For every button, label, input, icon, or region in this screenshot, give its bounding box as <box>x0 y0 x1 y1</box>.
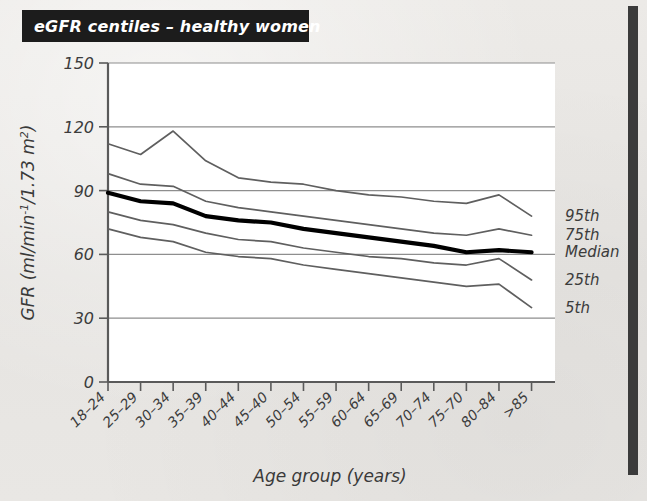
y-axis-ticks: 0306090120150 <box>63 54 108 392</box>
y-axis-label: GFR (ml/min-1/1.73 m2) <box>18 124 39 320</box>
x-tick-label: >85 <box>499 389 531 421</box>
x-tick-label: 60–64 <box>327 389 368 430</box>
x-tick-label: 18–24 <box>67 389 108 430</box>
figure-container: eGFR centiles – healthy women 0306090120… <box>0 0 647 501</box>
x-tick-label: 70–74 <box>392 389 433 430</box>
x-tick-label: 35–39 <box>164 389 206 431</box>
y-tick-label: 150 <box>63 54 94 73</box>
x-tick-label: 55–59 <box>295 389 337 431</box>
x-tick-label: 65–69 <box>360 389 402 431</box>
x-tick-label: 75–70 <box>425 389 467 431</box>
y-tick-label: 60 <box>74 245 94 264</box>
legend: 95th75thMedian25th5th <box>565 207 620 316</box>
y-axis-label-text: GFR (ml/min-1/1.73 m2) <box>18 124 39 320</box>
y-tick-label: 0 <box>84 373 94 392</box>
x-tick-label: 30–34 <box>132 389 173 430</box>
y-tick-label: 90 <box>74 182 94 201</box>
legend-label-25th: 25th <box>565 271 599 289</box>
y-tick-label: 120 <box>63 118 94 137</box>
x-axis-label: Age group (years) <box>252 466 406 486</box>
x-tick-label: 45–40 <box>230 389 272 431</box>
legend-label-median: Median <box>565 243 620 261</box>
x-tick-label: 40–44 <box>197 389 238 430</box>
x-axis-ticks: 18–2425–2930–3435–3940–4445–4050–5455–59… <box>67 382 532 430</box>
plot-area <box>108 63 555 382</box>
x-tick-label: 25–29 <box>99 389 141 431</box>
x-tick-label: 50–54 <box>262 389 303 430</box>
legend-label-5th: 5th <box>565 299 590 317</box>
line-chart: 0306090120150 18–2425–2930–3435–3940–444… <box>0 0 647 501</box>
y-tick-label: 30 <box>74 309 94 328</box>
legend-label-95th: 95th <box>565 207 599 225</box>
legend-label-75th: 75th <box>565 226 599 244</box>
x-tick-label: 80–84 <box>458 389 499 430</box>
